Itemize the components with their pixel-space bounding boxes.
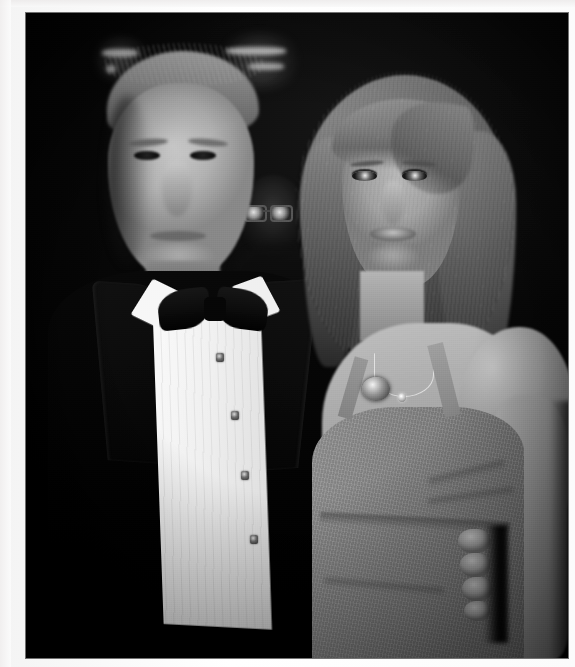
woman-arm-edge-shadow bbox=[550, 401, 568, 658]
man-eye-right bbox=[190, 151, 216, 160]
shirt-stud-1 bbox=[216, 353, 224, 362]
screenshot-root bbox=[0, 0, 575, 667]
man-mouth bbox=[150, 231, 206, 241]
woman-nose bbox=[382, 181, 404, 225]
man-shirt-pleats bbox=[152, 294, 272, 629]
woman-eye-right bbox=[402, 171, 427, 181]
shirt-stud-4 bbox=[250, 535, 258, 544]
bow-tie-knot bbox=[204, 297, 226, 321]
man-hair-wisps bbox=[102, 43, 264, 87]
man-bow-tie bbox=[158, 287, 270, 333]
woman-eye-left bbox=[352, 171, 377, 181]
woman-lips bbox=[370, 227, 416, 241]
man-eye-left bbox=[134, 151, 160, 160]
top-edge-smudge bbox=[0, 0, 575, 7]
man-nose bbox=[162, 161, 192, 217]
shirt-stud-3 bbox=[241, 471, 249, 480]
shirt-stud-2 bbox=[231, 411, 239, 420]
woman-in-dress bbox=[278, 65, 568, 658]
left-edge-smudge bbox=[0, 0, 11, 667]
woman-dress-brooch bbox=[362, 377, 390, 401]
woman-necklace-pendant bbox=[398, 393, 406, 402]
man-face-shadow bbox=[106, 95, 150, 265]
photograph bbox=[26, 13, 568, 658]
hand-shadow-gap bbox=[484, 525, 508, 643]
hand-at-waist bbox=[454, 525, 512, 643]
man-dress-shirt bbox=[152, 294, 272, 629]
